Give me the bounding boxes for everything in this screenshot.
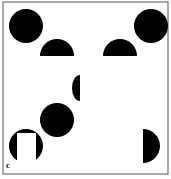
circle-top-left [9, 9, 43, 43]
panel-label: c [6, 160, 10, 170]
figure-canvas [0, 0, 171, 179]
illusion-figure: c [0, 0, 171, 179]
circle-middle [40, 103, 74, 137]
circle-top-right [134, 9, 168, 43]
